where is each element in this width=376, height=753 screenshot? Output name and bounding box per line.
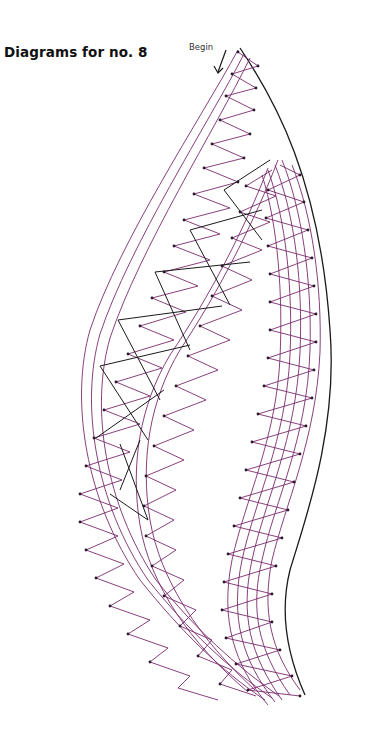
outer-outline <box>240 48 331 695</box>
arrow-down-left-icon <box>214 50 226 73</box>
ground-lines <box>96 160 270 520</box>
lace-pricking-diagram <box>0 0 376 753</box>
pinholes <box>79 51 318 698</box>
